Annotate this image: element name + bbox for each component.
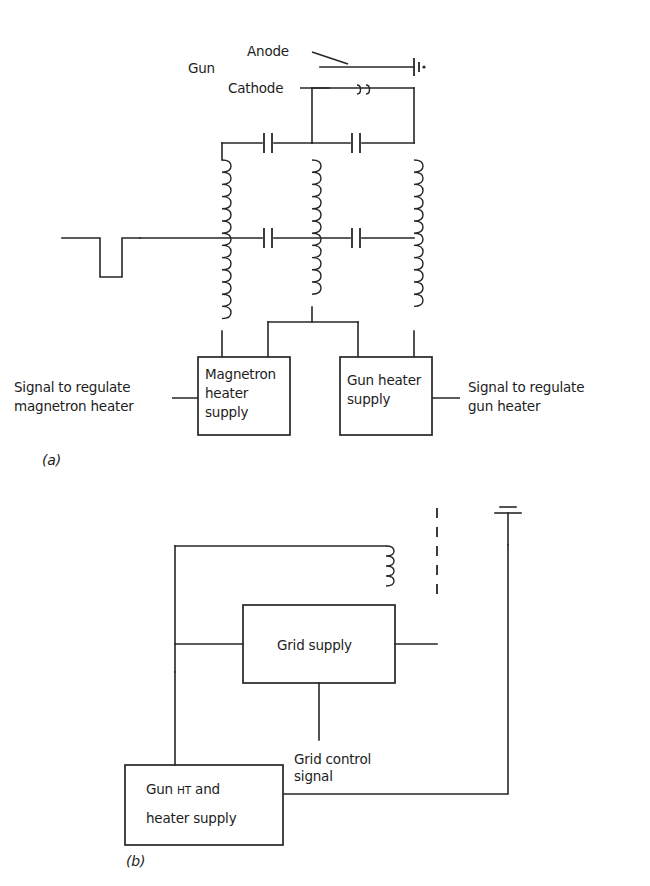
gun-heater-supply-line-2: supply (347, 391, 390, 407)
earth-ground-icon (495, 507, 521, 545)
grid-control-label-line-1: Grid control (294, 751, 371, 767)
magnetron-heater-supply-line-1: Magnetron (205, 366, 276, 382)
figure-root: Anode Gun Cathode (0, 0, 650, 886)
anode-leader-line (312, 52, 348, 64)
gun-ht-heater-supply-box[interactable] (125, 765, 283, 845)
signal-gun-label-line-2: gun heater (468, 398, 541, 414)
signal-magnetron-label-line-1: Signal to regulate (14, 379, 130, 395)
gun-label: Gun (188, 60, 215, 76)
gun-ht-word-ht: HT (177, 784, 192, 796)
signal-gun-label-line-1: Signal to regulate (468, 379, 584, 395)
capacitor-lower-right (352, 228, 360, 248)
gun-ht-word-gun: Gun (146, 781, 177, 797)
inductor-grid-small (386, 546, 394, 586)
pulse-waveform (62, 238, 140, 277)
magnetron-heater-supply-line-3: supply (205, 404, 248, 420)
gun-ht-word-and: and (191, 781, 220, 797)
grid-control-label-line-2: signal (294, 768, 333, 784)
magnetron-heater-supply-line-2: heater (205, 385, 249, 401)
grid-supply-label: Grid supply (277, 637, 352, 653)
capacitor-upper-right (352, 133, 360, 153)
cathode-label: Cathode (228, 80, 283, 96)
gun-ht-heater-supply-line-1: Gun HT and (146, 781, 220, 797)
inductor-middle (312, 160, 321, 322)
anode-terminal-dot (422, 65, 425, 68)
capacitor-upper-left (264, 133, 272, 153)
panel-a: Anode Gun Cathode (14, 43, 584, 468)
capacitor-lower-left (264, 228, 272, 248)
inductor-gun (414, 160, 423, 357)
gun-heater-supply-line-1: Gun heater (347, 372, 422, 388)
inductor-magnetron (222, 160, 231, 357)
gun-ht-heater-supply-line-2: heater supply (146, 810, 237, 826)
anode-label: Anode (247, 43, 289, 59)
panel-a-tag: (a) (42, 452, 61, 468)
panel-b-tag: (b) (126, 853, 145, 869)
panel-b: Grid supply Grid control signal Gun HT a… (125, 507, 521, 869)
signal-magnetron-label-line-2: magnetron heater (14, 398, 134, 414)
filament-marker-icon (357, 85, 370, 94)
